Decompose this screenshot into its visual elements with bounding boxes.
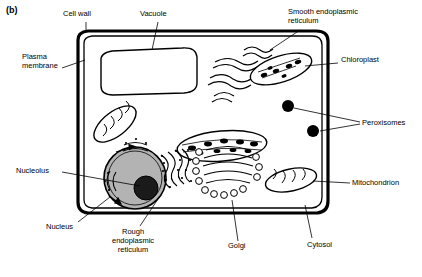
label-golgi: Golgi xyxy=(228,241,246,250)
label-plasma-membrane: Plasma membrane xyxy=(22,52,58,70)
label-cell-wall: Cell wall xyxy=(63,9,91,18)
label-rough-endoplasmic-reticulum: Rough endoplasmic reticulum xyxy=(112,227,154,254)
label-peroxisomes: Peroxisomes xyxy=(362,118,405,127)
label-cytosol: Cytosol xyxy=(307,240,332,249)
peroxisome-shape-1 xyxy=(282,100,294,112)
label-mitochondrion: Mitochondrion xyxy=(352,178,399,187)
vacuole-shape xyxy=(101,48,197,95)
peroxisome-shape-2 xyxy=(307,125,319,137)
plant-cell-diagram xyxy=(0,0,422,277)
label-chloroplast: Chloroplast xyxy=(341,55,379,64)
label-vacuole: Vacuole xyxy=(140,9,167,18)
figure-panel: (b) xyxy=(0,0,422,277)
label-nucleus: Nucleus xyxy=(46,222,73,231)
nucleolus-shape xyxy=(134,176,158,200)
label-smooth-endoplasmic-reticulum: Smooth endoplasmic reticulum xyxy=(288,7,358,25)
label-nucleolus: Nucleolus xyxy=(16,166,49,175)
